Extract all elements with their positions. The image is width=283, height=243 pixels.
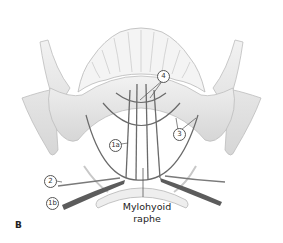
- label-3: 3: [173, 128, 186, 141]
- label-1b: 1b: [46, 197, 59, 210]
- label-2: 2: [44, 175, 57, 188]
- stylohyoid-band-right: [165, 176, 225, 182]
- label-1a: 1a: [109, 139, 122, 152]
- caption-line-2: raphe: [112, 213, 182, 225]
- caption-line-1: Mylohyoid: [112, 201, 182, 213]
- label-4: 4: [157, 70, 170, 83]
- panel-label: B: [15, 220, 22, 230]
- stylohyoid-band-left: [58, 178, 120, 186]
- caption-mylohyoid-raphe: Mylohyoid raphe: [112, 201, 182, 225]
- mandible-body: [49, 76, 235, 141]
